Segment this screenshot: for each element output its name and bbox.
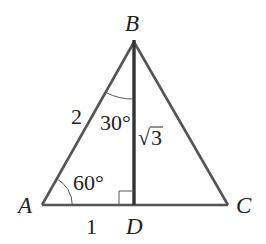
angle-label-a: 60° — [73, 170, 104, 195]
vertex-label-b: B — [125, 11, 139, 36]
vertex-label-a: A — [16, 193, 33, 218]
right-angle-marker — [119, 191, 134, 205]
angle-label-b: 30° — [100, 110, 131, 135]
triangle-diagram: B A C D 2 1 30° 60° √ 3 — [0, 0, 266, 244]
side-bc — [134, 42, 228, 205]
angle-arc-b — [106, 92, 134, 99]
side-label-bd: √ 3 — [138, 125, 163, 150]
radical-value: 3 — [151, 125, 162, 150]
vertex-label-d: D — [125, 214, 143, 239]
side-label-ab: 2 — [71, 104, 82, 129]
vertex-label-c: C — [236, 193, 252, 218]
radical-sign: √ — [138, 125, 151, 150]
side-label-ad: 1 — [86, 214, 97, 239]
angle-arc-a — [57, 179, 73, 205]
